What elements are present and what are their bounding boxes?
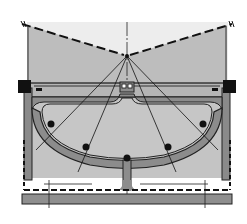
cross-section-diagram <box>0 0 247 224</box>
small-slot-right <box>212 88 218 91</box>
side-wall-right <box>222 88 230 180</box>
apex-node <box>125 54 129 58</box>
side-wall-left <box>24 88 32 180</box>
base-slab <box>22 194 232 204</box>
corner-block-right <box>223 80 236 93</box>
small-slot-left <box>36 88 42 91</box>
hub-window-left <box>122 84 126 88</box>
hub-window-right <box>128 84 132 88</box>
corner-block-left <box>18 80 31 93</box>
